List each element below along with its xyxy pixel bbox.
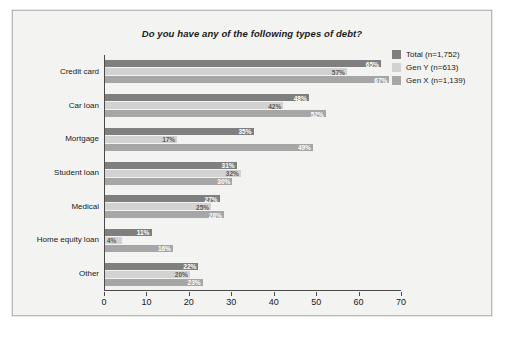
bar-row: 65%	[105, 60, 401, 67]
bar-group: Medical27%25%28%	[105, 195, 401, 218]
bar	[105, 94, 309, 101]
x-axis-tick-label: 10	[141, 297, 151, 307]
x-axis-tick-label: 20	[184, 297, 194, 307]
bar	[105, 162, 237, 169]
category-label: Student loan	[54, 168, 99, 177]
category-label: Mortgage	[65, 134, 99, 143]
x-axis-tick-label: 40	[269, 297, 279, 307]
bar-value-label: 4%	[107, 237, 116, 244]
bar	[105, 195, 220, 202]
category-label: Medical	[71, 202, 99, 211]
x-axis-tick	[231, 292, 232, 296]
legend-item: Gen Y (n=613)	[392, 63, 465, 72]
legend-item: Total (n=1,752)	[392, 50, 465, 59]
bar-row: 57%	[105, 68, 401, 75]
bar	[105, 211, 224, 218]
plot-area: Credit card65%57%67%Car loan48%42%52%Mor…	[104, 55, 401, 291]
x-axis: 010203040506070	[104, 292, 401, 312]
bar-row: 28%	[105, 211, 401, 218]
x-axis-tick	[104, 292, 105, 296]
chart-legend: Total (n=1,752)Gen Y (n=613)Gen X (n=1,1…	[392, 50, 465, 85]
x-axis-tick	[189, 292, 190, 296]
bar-group: Other22%20%23%	[105, 263, 401, 286]
bar-value-label: 16%	[158, 245, 171, 252]
bar-value-label: 28%	[209, 211, 222, 218]
category-label: Car loan	[69, 101, 99, 110]
bar-group: Home equity loan11%4%16%	[105, 229, 401, 252]
bar-row: 30%	[105, 178, 401, 185]
bar-value-label: 11%	[137, 229, 150, 236]
chart-panel: Do you have any of the following types o…	[12, 10, 492, 316]
bar-value-label: 49%	[298, 144, 311, 151]
bar	[105, 60, 381, 67]
bar	[105, 110, 326, 117]
legend-label: Gen Y (n=613)	[406, 63, 458, 72]
bar-value-label: 30%	[217, 178, 230, 185]
bar-value-label: 48%	[294, 94, 307, 101]
bar-row: 25%	[105, 203, 401, 210]
bar-value-label: 67%	[374, 76, 387, 83]
bar-value-label: 27%	[205, 195, 218, 202]
bar-row: 32%	[105, 170, 401, 177]
bar-value-label: 17%	[162, 136, 175, 143]
legend-label: Total (n=1,752)	[406, 50, 460, 59]
bar	[105, 178, 232, 185]
page-title: Do you have any of the following types o…	[13, 28, 491, 39]
bar-value-label: 32%	[226, 170, 239, 177]
screenshot-root: Do you have any of the following types o…	[0, 0, 515, 338]
bar	[105, 68, 347, 75]
bar-row: 22%	[105, 263, 401, 270]
bar-row: 42%	[105, 102, 401, 109]
bar-value-label: 35%	[239, 128, 252, 135]
bar-group: Car loan48%42%52%	[105, 94, 401, 117]
bar	[105, 144, 313, 151]
legend-label: Gen X (n=1,139)	[406, 76, 465, 85]
x-axis-tick	[401, 292, 402, 296]
bar-row: 52%	[105, 110, 401, 117]
category-label: Home equity loan	[37, 235, 99, 244]
bar	[105, 128, 254, 135]
bar-row: 4%	[105, 237, 401, 244]
bar	[105, 76, 389, 83]
legend-item: Gen X (n=1,139)	[392, 76, 465, 85]
bar-row: 31%	[105, 162, 401, 169]
bar-value-label: 25%	[196, 203, 209, 210]
bar-row: 17%	[105, 136, 401, 143]
x-axis-tick	[146, 292, 147, 296]
bar-row: 49%	[105, 144, 401, 151]
bar-group: Student loan31%32%30%	[105, 162, 401, 185]
x-axis-tick	[274, 292, 275, 296]
bar-group: Credit card65%57%67%	[105, 60, 401, 83]
bar-value-label: 57%	[332, 68, 345, 75]
bar-value-label: 22%	[183, 263, 196, 270]
bar-row: 11%	[105, 229, 401, 236]
bar-row: 67%	[105, 76, 401, 83]
x-axis-tick-label: 50	[311, 297, 321, 307]
bar-row: 48%	[105, 94, 401, 101]
x-axis-tick	[316, 292, 317, 296]
bar	[105, 102, 283, 109]
bar-row: 16%	[105, 245, 401, 252]
bar-value-label: 42%	[268, 102, 281, 109]
bar-row: 27%	[105, 195, 401, 202]
bar-row: 35%	[105, 128, 401, 135]
bar-group: Mortgage35%17%49%	[105, 128, 401, 151]
x-axis-tick-label: 60	[354, 297, 364, 307]
bar	[105, 170, 241, 177]
x-axis-tick	[359, 292, 360, 296]
bar-value-label: 20%	[175, 271, 188, 278]
bar-value-label: 65%	[366, 60, 379, 67]
bar-value-label: 52%	[311, 110, 324, 117]
bar-value-label: 31%	[222, 162, 235, 169]
bar-row: 23%	[105, 279, 401, 286]
category-label: Other	[79, 269, 99, 278]
x-axis-tick-label: 70	[396, 297, 406, 307]
bar-value-label: 23%	[188, 279, 201, 286]
category-label: Credit card	[60, 67, 99, 76]
bar-row: 20%	[105, 271, 401, 278]
x-axis-tick-label: 30	[226, 297, 236, 307]
x-axis-tick-label: 0	[101, 297, 106, 307]
